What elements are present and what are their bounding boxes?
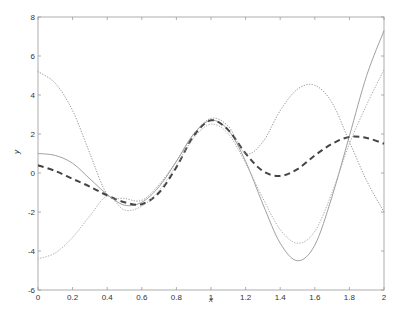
- y-tick-label: 2: [31, 130, 36, 139]
- y-tick-label: 8: [31, 13, 36, 22]
- y-tick-label: 6: [31, 52, 36, 61]
- series-dotted-upper-start: [38, 72, 384, 212]
- y-tick-label: 0: [31, 169, 36, 178]
- x-tick-label: 0.2: [67, 293, 79, 302]
- y-axis-label: y: [12, 149, 21, 155]
- x-tick-label: 2: [382, 293, 387, 302]
- x-tick-label: 0.6: [136, 293, 148, 302]
- y-tick-label: -2: [28, 208, 36, 217]
- y-tick-label: 4: [31, 91, 36, 100]
- x-tick-label: 1.2: [240, 293, 252, 302]
- line-chart: 00.20.40.60.811.21.41.61.82-6-4-202468 x…: [0, 0, 402, 316]
- series-solid: [38, 31, 384, 261]
- x-tick-label: 0: [36, 293, 41, 302]
- series-dotted-lower-start: [38, 70, 384, 259]
- x-tick-label: 1.4: [275, 293, 287, 302]
- x-tick-label: 0.8: [171, 293, 183, 302]
- y-tick-label: -4: [28, 247, 36, 256]
- x-tick-label: 0.4: [102, 293, 114, 302]
- x-tick-label: 1.8: [344, 293, 356, 302]
- series-group: [38, 31, 384, 261]
- axis-ticks: 00.20.40.60.811.21.41.61.82-6-4-202468: [28, 13, 387, 302]
- y-tick-label: -6: [28, 286, 36, 295]
- x-tick-label: 1.6: [309, 293, 321, 302]
